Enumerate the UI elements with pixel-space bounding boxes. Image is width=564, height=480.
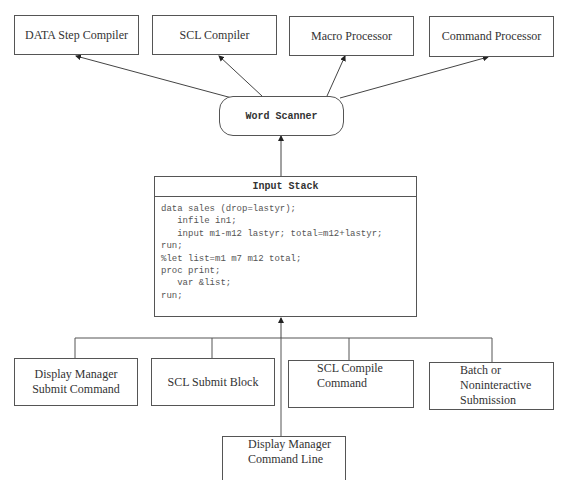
code-line: var &list; xyxy=(161,277,416,289)
code-line: input m1-m12 lastyr; total=m12+lastyr; xyxy=(161,228,416,240)
scl-compile-command-box: SCL Compile Command xyxy=(288,360,414,408)
command-processor-label: Command Processor xyxy=(442,29,542,44)
code-line: infile in1; xyxy=(161,215,416,227)
box-line: Batch or xyxy=(460,363,501,378)
box-line: Command xyxy=(317,376,367,391)
display-manager-submit-command-box: Display Manager Submit Command xyxy=(14,358,138,406)
box-line: Noninteractive xyxy=(460,378,531,393)
box-line: Submit Command xyxy=(32,382,120,397)
arrow-to-command-processor xyxy=(340,57,488,98)
arrow-to-data-step-compiler xyxy=(76,56,232,98)
box-line: SCL Compile xyxy=(317,361,383,376)
code-line: data sales (drop=lastyr); xyxy=(161,203,416,215)
box-line: Display Manager xyxy=(248,437,331,452)
batch-submission-box: Batch or Noninteractive Submission xyxy=(429,362,554,410)
code-line: proc print; xyxy=(161,265,416,277)
scl-compiler-label: SCL Compiler xyxy=(180,28,250,43)
word-scanner-box: Word Scanner xyxy=(219,96,344,136)
display-manager-command-line-box: Display Manager Command Line xyxy=(222,436,346,480)
box-line: Submission xyxy=(460,393,516,408)
macro-processor-box: Macro Processor xyxy=(289,16,414,56)
code-line: %let list=m1 m7 m12 total; xyxy=(161,253,416,265)
data-step-compiler-box: DATA Step Compiler xyxy=(14,15,139,55)
data-step-compiler-label: DATA Step Compiler xyxy=(25,28,128,43)
input-stack-box: Input Stack data sales (drop=lastyr); in… xyxy=(154,176,417,317)
arrow-to-macro-processor xyxy=(327,56,345,96)
input-stack-code: data sales (drop=lastyr); infile in1; in… xyxy=(155,197,416,302)
box-line: Command Line xyxy=(248,452,323,467)
code-line: run; xyxy=(161,240,416,252)
arrow-to-scl-compiler xyxy=(219,56,262,96)
scl-compiler-box: SCL Compiler xyxy=(152,15,277,55)
scl-submit-block-box: SCL Submit Block xyxy=(151,358,275,406)
macro-processor-label: Macro Processor xyxy=(311,29,392,44)
command-processor-box: Command Processor xyxy=(429,16,554,57)
box-line: Display Manager xyxy=(35,367,118,382)
box-line: SCL Submit Block xyxy=(168,375,259,390)
word-scanner-label: Word Scanner xyxy=(245,109,317,124)
input-stack-title: Input Stack xyxy=(155,177,416,197)
code-line: run; xyxy=(161,290,416,302)
